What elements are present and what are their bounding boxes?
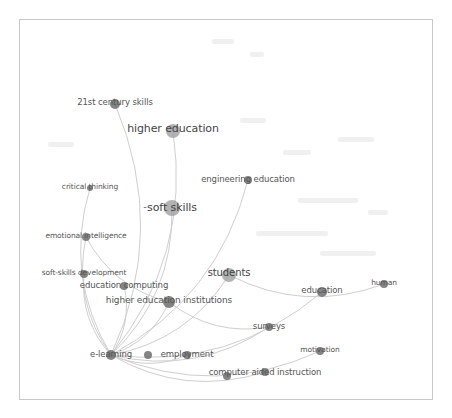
node-label-higher-education[interactable]: higher education [127,123,219,134]
faded-label [250,52,264,57]
node-label-soft-skills-development[interactable]: soft-skills development [42,269,127,277]
faded-label [368,210,388,215]
soft-skills-marker: - [143,202,147,212]
node-label-e-learning[interactable]: e-learning [90,350,132,359]
node-unlabeled[interactable] [144,351,152,359]
node-label-employment[interactable]: employment [161,350,214,359]
node-label-emotional-intelligence[interactable]: emotional intelligence [45,232,126,240]
node-label-education[interactable]: education [301,286,342,295]
network-canvas[interactable] [0,0,452,418]
node-label-students[interactable]: students [208,268,251,278]
node-label-21st-century-skills[interactable]: 21st century skills [77,98,152,107]
node-label-surveys[interactable]: surveys [253,322,285,331]
node-label-engineering-education[interactable]: engineering education [201,175,295,184]
faded-label [212,39,234,44]
node-label-soft-skills[interactable]: soft skills [147,202,197,213]
node-label-critical-thinking[interactable]: critical thinking [62,183,118,191]
faded-label [283,150,311,155]
node-label-motivation[interactable]: motivation [300,346,339,354]
node-label-human[interactable]: human [371,279,397,287]
node-label-higher-education-institutions[interactable]: higher education institutions [106,296,232,305]
faded-label [320,251,376,256]
node-label-education-computing[interactable]: education computing [80,281,168,290]
faded-label [256,231,328,236]
node-label-computer-aided-instruction[interactable]: computer aided instruction [209,368,322,377]
faded-label [298,198,358,203]
edge-layer [81,104,384,382]
faded-label [338,137,374,142]
faded-label [240,118,266,123]
faded-label [48,142,74,147]
edge-e-learning-higher-education [111,131,176,355]
